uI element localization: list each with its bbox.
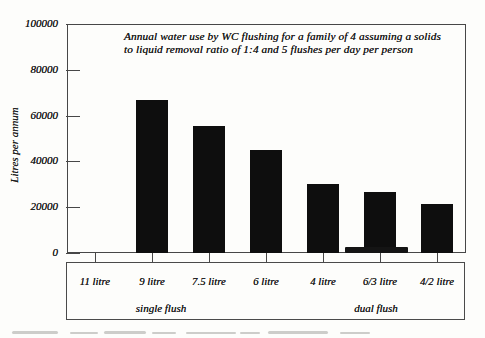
category-label: 7.5 litre <box>192 275 226 287</box>
group-label-single-flush: single flush <box>136 302 186 314</box>
bar-9-litre <box>136 100 168 253</box>
group-label-dual-flush: dual flush <box>354 302 398 314</box>
y-tick-label: 0 <box>10 246 58 258</box>
print-artifact-strip <box>345 247 408 253</box>
category-label: 6 litre <box>253 275 279 287</box>
bar-6-litre <box>250 150 282 253</box>
x-tick-mark <box>209 253 210 262</box>
x-tick-mark <box>380 253 381 262</box>
x-tick-mark <box>152 253 153 262</box>
chart-title-line2: to liquid removal ratio of 1:4 and 5 flu… <box>124 43 454 56</box>
bar-7-5-litre <box>193 126 225 253</box>
category-label: 11 litre <box>80 275 110 287</box>
y-tick-mark <box>66 207 80 208</box>
x-axis-label-box <box>66 262 465 320</box>
y-tick-label: 100000 <box>10 17 58 29</box>
category-label: 4 litre <box>310 275 336 287</box>
category-label: 4/2 litre <box>420 275 454 287</box>
category-label: 6/3 litre <box>363 275 397 287</box>
y-tick-mark <box>66 253 80 254</box>
x-tick-mark <box>95 253 96 262</box>
bar-4-2-litre <box>421 204 453 253</box>
scanned-figure-page: Annual water use by WC flushing for a fa… <box>0 0 485 338</box>
y-tick-label: 40000 <box>10 154 58 166</box>
x-tick-mark <box>323 253 324 262</box>
bar-4-litre <box>307 184 339 253</box>
chart-title-line1: Annual water use by WC flushing for a fa… <box>124 30 454 43</box>
x-tick-mark <box>266 253 267 262</box>
bar-6-3-litre <box>364 192 396 253</box>
y-tick-label: 20000 <box>10 200 58 212</box>
y-tick-mark <box>66 24 80 25</box>
category-label: 9 litre <box>139 275 165 287</box>
y-tick-mark <box>66 161 80 162</box>
chart-title: Annual water use by WC flushing for a fa… <box>124 30 454 56</box>
y-tick-label: 60000 <box>10 109 58 121</box>
y-tick-mark <box>66 116 80 117</box>
y-tick-mark <box>66 70 80 71</box>
cutoff-caption-fragment <box>0 329 485 338</box>
y-tick-label: 80000 <box>10 63 58 75</box>
x-tick-mark <box>437 253 438 262</box>
